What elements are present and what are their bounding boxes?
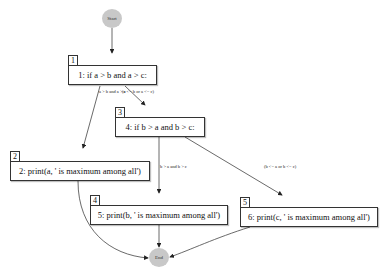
flowchart: Start 1 1: if a > b and a > c: a > b and…	[0, 0, 389, 276]
node-4-id-tab: 4	[90, 195, 100, 205]
edges-layer	[0, 0, 389, 276]
edge-1-2	[83, 86, 100, 148]
node-3-condition: 4: if b > a and b > c:	[115, 117, 205, 137]
start-label: Start	[107, 16, 116, 21]
node-5-statement: 6: print(c, ' is maximum among all')	[240, 207, 378, 227]
edge-5-end	[170, 227, 250, 257]
node-1-id-tab: 1	[68, 55, 78, 65]
edge-label-3-5: (b <= a or b <= c)	[264, 164, 296, 169]
node-3-id-tab: 3	[115, 107, 125, 117]
edge-label-3-4: b > a and b > c	[160, 164, 187, 169]
node-2-statement: 2: print(a, ' is maximum among all')	[10, 161, 150, 181]
node-5-id-tab: 5	[240, 197, 250, 207]
edge-label-1-3: (a <= b or a <= c)	[122, 89, 154, 94]
end-node: End	[149, 248, 169, 267]
node-2-id-tab: 2	[10, 151, 20, 161]
end-label: End	[155, 255, 163, 260]
node-1-condition: 1: if a > b and a > c:	[68, 65, 157, 85]
start-node: Start	[102, 9, 122, 28]
node-4-statement: 5: print(b, ' is maximum among all')	[90, 205, 228, 225]
